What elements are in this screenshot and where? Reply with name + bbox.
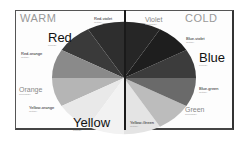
- label-yellow-green: Yellow-Green Tertiary: [130, 121, 154, 129]
- label-red-orange: Red-orange Tertiary: [21, 52, 42, 60]
- label-red: Red Primary: [48, 31, 72, 48]
- label-blue-green: Blue-green Tertiary: [199, 87, 219, 95]
- cold-heading: COLD: [185, 13, 218, 24]
- label-orange: Orange Secondary: [19, 86, 42, 97]
- warm-cold-divider: [124, 10, 126, 130]
- label-blue: Blue Primary: [199, 51, 225, 68]
- label-green: Green Secondary: [185, 106, 204, 117]
- label-red-violet: Red-violet Tertiary: [94, 17, 112, 25]
- label-yellow: Yellow Primary: [73, 116, 110, 133]
- warm-heading: WARM: [20, 13, 56, 24]
- label-violet: Violet Secondary: [145, 16, 162, 27]
- label-yellow-orange: Yellow-orange Tertiary: [29, 106, 54, 114]
- label-blue-violet: Blue-violet Tertiary: [186, 37, 205, 45]
